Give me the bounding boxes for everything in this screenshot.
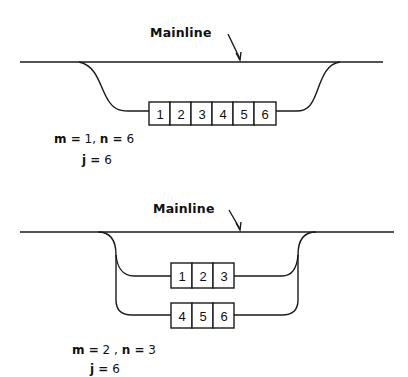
- params-m-n-1: m = 1, n = 6: [54, 132, 134, 146]
- box-number: 2: [177, 107, 184, 122]
- box-number: 6: [261, 107, 268, 122]
- box-number: 5: [199, 309, 206, 324]
- j-value: 6: [104, 153, 112, 167]
- arrowhead-2: [236, 222, 241, 230]
- box-number: 5: [240, 107, 247, 122]
- j-value: 6: [112, 362, 120, 376]
- mainline-label-2: Mainline: [153, 201, 215, 216]
- m-label: m =: [72, 343, 99, 357]
- diagram-2: [20, 210, 394, 328]
- box-number: 4: [178, 309, 185, 324]
- diagram-canvas: 1 2 3 4 5 6 1 2 3 4 5 6: [0, 0, 408, 377]
- box-number: 1: [156, 107, 163, 122]
- arrowhead-1: [236, 52, 241, 60]
- n-label: n =: [122, 343, 145, 357]
- j-label: j =: [82, 153, 100, 167]
- box-number: 3: [220, 269, 227, 284]
- params-j-2: j = 6: [90, 362, 120, 376]
- branch-left-curve-1: [79, 62, 149, 111]
- siding-boxes-1: [149, 102, 276, 125]
- n-value: 3: [148, 343, 156, 357]
- j-label: j =: [90, 362, 108, 376]
- n-value: 6: [126, 132, 134, 146]
- m-label: m =: [54, 132, 81, 146]
- branch-right-top-2: [234, 255, 298, 276]
- box-number: 4: [219, 107, 226, 122]
- params-j-1: j = 6: [82, 153, 112, 167]
- branch-left-curve-2: [98, 232, 171, 315]
- mainline-arrow-1: [228, 34, 240, 59]
- branch-right-curve-1: [276, 62, 340, 111]
- box-number: 3: [198, 107, 205, 122]
- params-m-n-2: m = 2 , n = 3: [72, 343, 156, 357]
- branch-right-curve-2: [234, 232, 316, 315]
- m-value: 2 ,: [103, 343, 118, 357]
- box-number: 1: [178, 269, 185, 284]
- m-value: 1,: [85, 132, 96, 146]
- box-number: 2: [199, 269, 206, 284]
- branch-left-top-2: [116, 255, 171, 276]
- box-number: 6: [220, 309, 227, 324]
- mainline-label-1: Mainline: [150, 25, 212, 40]
- n-label: n =: [100, 132, 123, 146]
